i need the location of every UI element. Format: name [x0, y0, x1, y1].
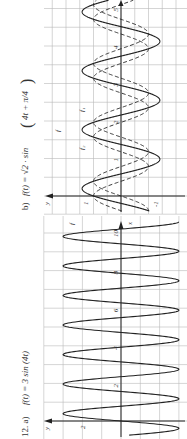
panel-a-y-label: y	[43, 426, 51, 431]
panel-b-ytick-neg1: -1	[152, 201, 160, 207]
panel-a: y 2 x 246810 f	[43, 214, 187, 439]
panel-a-ytick-2: 2	[79, 425, 87, 429]
panel-b-xtick: 3	[112, 83, 120, 88]
panel-a-xtick: 2	[112, 383, 120, 387]
panel-a-xtick: 8	[112, 271, 120, 275]
panel-b-label-f1: f₁	[78, 108, 86, 112]
panel-b-y-arrow-icon	[45, 194, 53, 199]
panel-b-label-f: f	[54, 129, 62, 132]
panel-b-title-prefix: b)	[20, 203, 30, 211]
panel-b-x-ticks: 12345	[112, 8, 120, 162]
panel-a-x-label: x	[126, 221, 134, 226]
panel-b-xtick: 2	[112, 120, 120, 124]
panel-a-xtick: 10	[112, 230, 120, 238]
panel-a-title-prefix: 12. a)	[20, 417, 30, 438]
panel-b-y-label: y	[43, 201, 51, 206]
panel-b-xtick: 4	[112, 45, 120, 49]
rotated-figure: y 2 x 246810 f y 1 -1 12345 f f₁ f₂ 12. …	[0, 0, 187, 439]
panel-a-x-arrow-icon	[119, 221, 124, 229]
panel-b: y 1 -1 12345 f f₁ f₂	[43, 0, 187, 214]
panel-a-xtick: 4	[112, 346, 120, 350]
panel-b-label-f2: f₂	[78, 145, 86, 150]
panel-b-title-paren: 4t + π/4	[20, 90, 30, 120]
panel-b-title-paren-open: (	[18, 123, 36, 128]
panel-a-curve-label: f	[68, 222, 76, 225]
panel-b-title: f(t) = √2 · sin	[20, 147, 30, 196]
panel-b-ytick-1: 1	[82, 202, 90, 206]
panel-b-xtick: 5	[112, 8, 120, 12]
panel-b-title-paren-close: )	[18, 79, 36, 84]
panel-a-xtick: 6	[112, 308, 120, 312]
panel-b-xtick: 1	[112, 158, 120, 162]
panel-a-y-arrow-icon	[44, 419, 52, 424]
panel-a-title: f(t) = 3 sin (4t)	[20, 351, 30, 405]
